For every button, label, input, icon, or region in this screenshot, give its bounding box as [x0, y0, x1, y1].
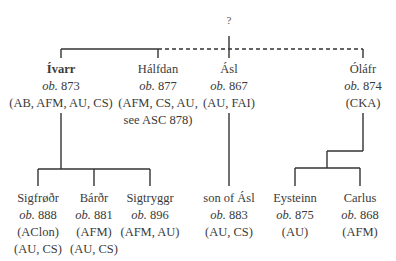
obit-label: ob. — [276, 208, 292, 222]
sources-cont: (AU, CS) — [70, 241, 118, 258]
obit-label: ob. — [344, 79, 360, 93]
person-name: son of Ásl — [203, 190, 254, 207]
obit-year: 881 — [94, 208, 113, 222]
sources: (AFM, CS, AU, — [118, 95, 198, 112]
person-carlus: Carlus ob. 868 (AFM) — [341, 190, 379, 241]
obit-label: ob. — [19, 208, 35, 222]
unknown-parent-marker: ? — [227, 14, 232, 26]
sources: (AU, CS) — [203, 224, 254, 241]
person-son-of-asl: son of Ásl ob. 883 (AU, CS) — [203, 190, 254, 241]
sources: (CKA) — [344, 95, 382, 112]
obit-year: 883 — [229, 208, 248, 222]
person-name: Eysteinn — [273, 190, 317, 207]
sources: (AB, AFM, AU, CS) — [9, 95, 113, 112]
person-sigtryggr: Sigtryggr ob. 896 (AFM, AU) — [120, 190, 179, 241]
sources: (AU, FAI) — [203, 95, 255, 112]
sources: (AClon) — [14, 224, 62, 241]
person-name: Bárðr — [70, 190, 118, 207]
obit-label: ob. — [210, 79, 226, 93]
obit-label: ob. — [139, 79, 155, 93]
obit-label: ob. — [341, 208, 357, 222]
person-eysteinn: Eysteinn ob. 875 (AU) — [273, 190, 317, 241]
sources-cont: (AU, CS) — [14, 241, 62, 258]
sources: (AFM) — [341, 224, 379, 241]
person-ivarr: Ívarr ob. 873 (AB, AFM, AU, CS) — [9, 61, 113, 112]
sources: (AFM) — [70, 224, 118, 241]
person-name: Sigtryggr — [120, 190, 179, 207]
obit-year: 875 — [295, 208, 314, 222]
person-sigfrodr: Sigfrøðr ob. 888 (AClon) (AU, CS) — [14, 190, 62, 258]
person-halfdan: Hálfdan ob. 877 (AFM, CS, AU, see ASC 87… — [118, 61, 198, 129]
obit-year: 868 — [360, 208, 379, 222]
sources-cont: see ASC 878) — [118, 112, 198, 129]
obit-year: 896 — [150, 208, 169, 222]
sources: (AFM, AU) — [120, 224, 179, 241]
obit-year: 888 — [38, 208, 57, 222]
sources: (AU) — [273, 224, 317, 241]
obit-label: ob. — [75, 208, 91, 222]
person-name: Ásl — [203, 61, 255, 78]
obit-year: 874 — [363, 79, 382, 93]
person-name: Carlus — [341, 190, 379, 207]
obit-year: 873 — [61, 79, 80, 93]
obit-year: 877 — [158, 79, 177, 93]
person-asl: Ásl ob. 867 (AU, FAI) — [203, 61, 255, 112]
obit-label: ob. — [210, 208, 226, 222]
person-name: Ívarr — [9, 61, 113, 78]
person-name: Óláfr — [344, 61, 382, 78]
person-olafr: Óláfr ob. 874 (CKA) — [344, 61, 382, 112]
obit-label: ob. — [42, 79, 58, 93]
person-name: Sigfrøðr — [14, 190, 62, 207]
obit-label: ob. — [131, 208, 147, 222]
obit-year: 867 — [229, 79, 248, 93]
person-name: Hálfdan — [118, 61, 198, 78]
person-bardr: Bárðr ob. 881 (AFM) (AU, CS) — [70, 190, 118, 258]
